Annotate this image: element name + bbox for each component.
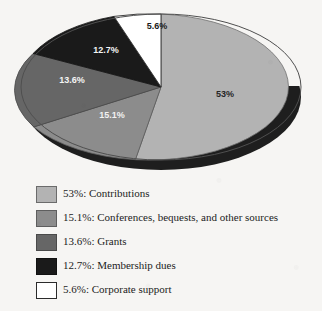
legend-item-contributions[interactable]: 53%: Contributions: [36, 185, 316, 206]
chart-legend: 53%: Contributions 15.1%: Conferences, b…: [36, 185, 316, 305]
legend-swatch-icon: [36, 210, 57, 227]
legend-swatch-icon: [36, 282, 57, 299]
legend-swatch-icon: [36, 186, 57, 203]
legend-item-label: 5.6%: Corporate support: [63, 281, 171, 296]
legend-item-label: 12.7%: Membership dues: [63, 257, 176, 272]
slice-label-conferences: 15.1%: [99, 110, 125, 120]
legend-item-membership-dues[interactable]: 12.7%: Membership dues: [36, 257, 316, 278]
pie-chart-svg: 53% 15.1% 13.6% 12.7% 5.6%: [0, 0, 322, 176]
legend-item-label: 53%: Contributions: [63, 185, 149, 200]
legend-swatch-icon: [36, 234, 57, 251]
slice-label-membership-dues: 12.7%: [93, 45, 119, 55]
slice-label-corporate-support: 5.6%: [147, 21, 168, 31]
legend-item-grants[interactable]: 13.6%: Grants: [36, 233, 316, 254]
slice-label-contributions: 53%: [216, 89, 234, 99]
pie-chart: 53% 15.1% 13.6% 12.7% 5.6%: [0, 0, 322, 176]
legend-item-corporate-support[interactable]: 5.6%: Corporate support: [36, 281, 316, 302]
legend-swatch-icon: [36, 258, 57, 275]
legend-item-conferences[interactable]: 15.1%: Conferences, bequests, and other …: [36, 209, 316, 230]
legend-item-label: 15.1%: Conferences, bequests, and other …: [63, 209, 278, 224]
legend-item-label: 13.6%: Grants: [63, 233, 127, 248]
pie-slice-group: [14, 14, 288, 160]
slice-label-grants: 13.6%: [59, 75, 85, 85]
